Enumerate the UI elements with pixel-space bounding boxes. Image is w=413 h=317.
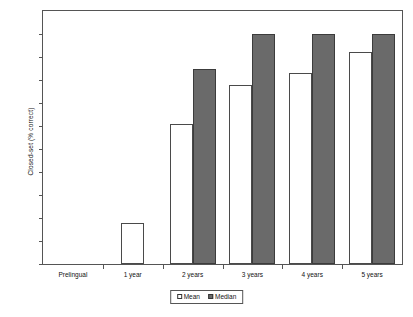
legend-label-median: Median xyxy=(215,293,236,300)
bar-median xyxy=(252,34,275,264)
x-axis-label: 1 year xyxy=(103,271,163,278)
x-axis-label: Prelingual xyxy=(43,271,103,278)
x-tick-mark xyxy=(342,265,343,269)
y-tick-mark xyxy=(39,34,43,35)
y-tick-mark xyxy=(39,103,43,104)
y-tick-mark xyxy=(39,218,43,219)
y-tick-mark xyxy=(39,149,43,150)
legend-label-mean: Mean xyxy=(184,293,200,300)
bar-group xyxy=(43,11,103,264)
bar-group xyxy=(282,11,342,264)
y-axis-title: Closed-set (% correct) xyxy=(27,42,34,242)
x-axis-label: 5 years xyxy=(342,271,402,278)
legend-entry-mean: Mean xyxy=(177,293,200,300)
bar-group xyxy=(163,11,223,264)
x-axis-label: 3 years xyxy=(223,271,283,278)
chart-legend: Mean Median xyxy=(170,290,244,304)
legend-swatch-median-icon xyxy=(208,294,213,299)
y-tick-mark xyxy=(39,264,43,265)
bar-median xyxy=(372,34,395,264)
y-tick-mark xyxy=(39,126,43,127)
x-tick-mark xyxy=(282,265,283,269)
x-tick-mark xyxy=(223,265,224,269)
bars-area xyxy=(43,11,402,264)
bar-group xyxy=(223,11,283,264)
bar-group xyxy=(103,11,163,264)
y-tick-mark xyxy=(39,57,43,58)
bar-mean xyxy=(170,124,193,264)
legend-swatch-mean-icon xyxy=(177,294,182,299)
bar-mean xyxy=(229,85,252,264)
y-tick-mark xyxy=(39,80,43,81)
bar-median xyxy=(193,69,216,265)
x-tick-mark xyxy=(163,265,164,269)
y-tick-mark xyxy=(39,241,43,242)
x-axis-label: 2 years xyxy=(163,271,223,278)
y-tick-mark xyxy=(39,195,43,196)
bar-mean xyxy=(289,73,312,264)
bar-mean xyxy=(121,223,144,264)
bar-median xyxy=(312,34,335,264)
x-axis-label: 4 years xyxy=(282,271,342,278)
closed-set-bar-chart: Closed-set (% correct) 01020304050607080… xyxy=(0,0,413,317)
y-tick-mark xyxy=(39,172,43,173)
bar-group xyxy=(342,11,402,264)
bar-mean xyxy=(349,52,372,264)
x-tick-mark xyxy=(103,265,104,269)
legend-entry-median: Median xyxy=(208,293,236,300)
